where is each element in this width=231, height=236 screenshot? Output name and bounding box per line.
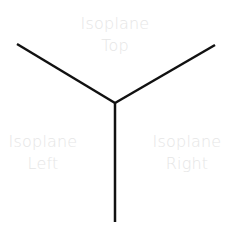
isoplane-diagram: Isoplane Top Isoplane Left Isoplane Righ… — [0, 0, 231, 236]
isoplane-top-line2: Top — [70, 35, 160, 57]
isoplane-left-line1: Isoplane — [0, 131, 88, 153]
isoplane-left-line2: Left — [0, 153, 88, 175]
isoplane-right-line2: Right — [142, 153, 231, 175]
isoplane-top-line1: Isoplane — [70, 13, 160, 35]
isoplane-right-label: Isoplane Right — [142, 131, 231, 175]
isoplane-top-label: Isoplane Top — [70, 13, 160, 57]
isoplane-left-label: Isoplane Left — [0, 131, 88, 175]
isoplane-right-line1: Isoplane — [142, 131, 231, 153]
